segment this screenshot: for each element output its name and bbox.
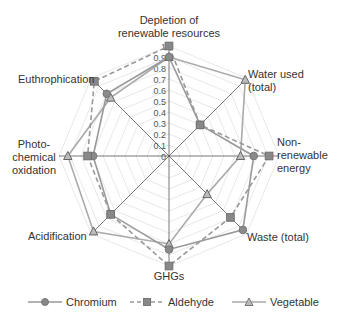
axis-label-7: Euthrophication xyxy=(18,73,108,86)
legend-label-chromium: Chromium xyxy=(66,296,117,308)
triangle-marker-icon xyxy=(232,297,266,307)
marker-aldehyde xyxy=(227,214,235,222)
axis-label-6: Photo- chemical oxidation xyxy=(4,138,64,177)
legend-item-vegetable: Vegetable xyxy=(232,292,319,312)
marker-aldehyde xyxy=(107,211,115,219)
radial-tick-label: 0.5 xyxy=(153,97,166,107)
legend-label-aldehyde: Aldehyde xyxy=(168,296,214,308)
marker-aldehyde xyxy=(265,152,273,160)
radial-tick-label: 0 xyxy=(161,152,166,162)
axis-label-1: Water used (total) xyxy=(248,68,328,94)
legend-item-aldehyde: Aldehyde xyxy=(130,292,214,312)
radial-tick-label: 0.2 xyxy=(153,130,166,140)
marker-aldehyde xyxy=(165,42,173,50)
marker-chromium xyxy=(165,246,173,254)
radial-tick-label: 0.4 xyxy=(153,108,166,118)
marker-chromium xyxy=(103,90,111,98)
marker-aldehyde xyxy=(84,152,92,160)
marker-aldehyde xyxy=(196,121,204,129)
legend: Chromium Aldehyde Vegetable xyxy=(0,292,338,312)
radial-tick-label: 0.7 xyxy=(153,75,166,85)
marker-chromium xyxy=(250,152,258,160)
radial-tick-label: 0.3 xyxy=(153,119,166,129)
legend-label-vegetable: Vegetable xyxy=(270,296,319,308)
square-marker-icon xyxy=(130,297,164,307)
axis-label-2: Non- renewable energy xyxy=(277,136,337,175)
marker-aldehyde xyxy=(165,262,173,270)
radial-tick-label: 0.6 xyxy=(153,86,166,96)
circle-marker-icon xyxy=(28,297,62,307)
marker-chromium xyxy=(165,53,173,61)
axis-label-5: Acidification xyxy=(28,230,108,243)
radial-tick-label: 0.1 xyxy=(153,141,166,151)
legend-item-chromium: Chromium xyxy=(28,292,117,312)
marker-vegetable xyxy=(236,152,244,160)
axis-label-3: Waste (total) xyxy=(247,231,337,244)
axis-label-4: GHGs xyxy=(145,270,193,283)
axis-label-0: Depletion of renewable resources xyxy=(98,14,240,40)
marker-chromium xyxy=(239,226,247,234)
